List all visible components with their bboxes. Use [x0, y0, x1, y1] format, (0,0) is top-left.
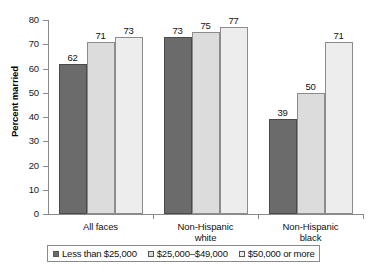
y-axis-tick-label: 80	[29, 15, 39, 25]
bar[interactable]: 73	[164, 37, 192, 214]
bar[interactable]: 62	[59, 64, 87, 214]
bar-group: 395071	[269, 20, 353, 214]
x-axis-category-line: Non-Hispanic	[153, 221, 258, 232]
chart-legend: Less than $25,000$25,000–$49,000$50,000 …	[47, 245, 320, 262]
y-axis-tick-label: 40	[29, 112, 39, 122]
bar-value-label: 77	[228, 16, 238, 26]
plot-area: 627173737577395071	[48, 20, 363, 214]
x-axis-category-line: white	[153, 232, 258, 243]
bar-value-label: 75	[200, 21, 210, 31]
x-axis-group-tick	[153, 214, 154, 219]
legend-item[interactable]: $50,000 or more	[239, 249, 315, 259]
x-axis-line	[48, 214, 364, 215]
y-axis-tick-label: 20	[29, 161, 39, 171]
bar-value-label: 39	[277, 108, 287, 118]
bar-value-label: 50	[305, 82, 315, 92]
bar-group: 737577	[164, 20, 248, 214]
bar-value-label: 62	[67, 53, 77, 63]
legend-label: $50,000 or more	[248, 249, 315, 259]
y-axis-tick-label: 60	[29, 64, 39, 74]
x-axis-category-label: Non-Hispanicblack	[258, 221, 363, 243]
x-axis-category-line: black	[258, 232, 363, 243]
legend-swatch-icon	[148, 251, 154, 257]
legend-label: Less than $25,000	[62, 249, 137, 259]
x-axis-category-label: Non-Hispanicwhite	[153, 221, 258, 243]
bar-group: 627173	[59, 20, 143, 214]
y-axis-tick-label: 30	[29, 136, 39, 146]
y-axis-tick-label: 50	[29, 88, 39, 98]
bar[interactable]: 75	[192, 32, 220, 214]
y-axis-tick	[43, 214, 48, 215]
y-axis-tick-label: 70	[29, 39, 39, 49]
x-axis-group-tick	[258, 214, 259, 219]
legend-swatch-icon	[53, 251, 59, 257]
x-axis-group-tick	[363, 214, 364, 219]
legend-item[interactable]: $25,000–$49,000	[148, 249, 228, 259]
y-axis-tick-label: 10	[29, 185, 39, 195]
y-axis-title: Percent married	[9, 42, 20, 162]
bar-value-label: 73	[123, 26, 133, 36]
y-axis-tick-label: 0	[34, 209, 39, 219]
bar-value-label: 73	[172, 26, 182, 36]
bar-value-label: 71	[333, 31, 343, 41]
legend-label: $25,000–$49,000	[157, 249, 228, 259]
bar[interactable]: 73	[115, 37, 143, 214]
bar[interactable]: 71	[325, 42, 353, 214]
legend-swatch-icon	[239, 251, 245, 257]
bar-value-label: 71	[95, 31, 105, 41]
bar[interactable]: 71	[87, 42, 115, 214]
bar[interactable]: 77	[220, 27, 248, 214]
x-axis-category-label: All faces	[48, 221, 153, 232]
bar-chart: Percent married 80706050403020100 627173…	[0, 0, 388, 272]
bar[interactable]: 50	[297, 93, 325, 214]
legend-item[interactable]: Less than $25,000	[53, 249, 137, 259]
bar[interactable]: 39	[269, 119, 297, 214]
x-axis-category-line: Non-Hispanic	[258, 221, 363, 232]
x-axis-category-line: All faces	[48, 221, 153, 232]
